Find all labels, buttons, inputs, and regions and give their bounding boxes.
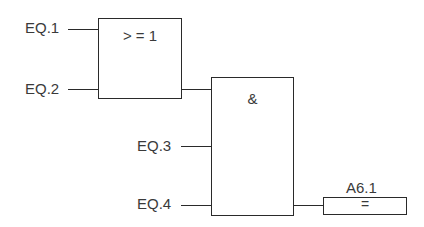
and-block: & (211, 77, 294, 216)
wire-eq4 (181, 205, 211, 206)
or-symbol: > = 1 (99, 27, 181, 44)
input-label-eq1: EQ.1 (25, 20, 59, 36)
and-symbol: & (212, 90, 293, 107)
wire-eq3 (181, 146, 211, 147)
or-block: > = 1 (98, 18, 182, 99)
assign-block: = (323, 197, 407, 215)
input-label-eq3: EQ.3 (137, 138, 171, 154)
wire-eq1 (68, 29, 98, 30)
output-label-a61: A6.1 (346, 180, 377, 196)
input-label-eq4: EQ.4 (137, 196, 171, 212)
input-label-eq2: EQ.2 (25, 81, 59, 97)
wire-and-to-output (294, 205, 323, 206)
assign-symbol: = (324, 197, 406, 211)
wire-or-to-and (182, 89, 211, 90)
wire-eq2 (68, 89, 98, 90)
